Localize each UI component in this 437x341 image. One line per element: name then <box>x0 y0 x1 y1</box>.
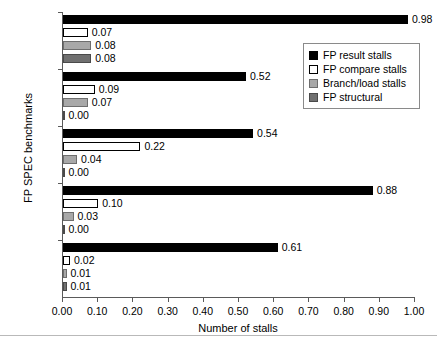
x-tick-9 <box>379 297 380 302</box>
bar-ear-series-0 <box>63 72 246 81</box>
legend-swatch-branch-load-stalls <box>309 79 318 88</box>
bar-su2cor-series-0 <box>63 243 278 252</box>
x-tick-8 <box>344 297 345 302</box>
x-tick-4 <box>203 297 204 302</box>
x-tick-label-2: 0.20 <box>112 305 152 317</box>
bar-doduc-series-0 <box>63 15 408 24</box>
bar-value-doduc-series-2: 0.08 <box>95 40 115 51</box>
x-tick-3 <box>168 297 169 302</box>
bar-su2cor-series-3 <box>63 282 67 291</box>
legend-swatch-fp-structural <box>309 93 318 102</box>
bar-value-ear-series-3: 0.00 <box>69 110 89 121</box>
bar-doduc-series-3 <box>63 54 91 63</box>
x-tick-label-3: 0.30 <box>148 305 188 317</box>
bar-value-hydro2d-series-1: 0.22 <box>144 141 164 152</box>
x-tick-7 <box>308 297 309 302</box>
x-tick-2 <box>132 297 133 302</box>
legend-swatch-fp-result-stalls <box>309 51 318 60</box>
y-axis-title: FP SPEC benchmarks <box>22 68 34 228</box>
x-tick-6 <box>273 297 274 302</box>
x-tick-label-6: 0.60 <box>253 305 293 317</box>
bar-value-ear-series-2: 0.07 <box>92 97 112 108</box>
x-tick-label-7: 0.70 <box>288 305 328 317</box>
bar-doduc-series-1 <box>63 28 88 37</box>
bar-value-hydro2d-series-3: 0.00 <box>69 167 89 178</box>
bar-value-ear-series-1: 0.09 <box>99 84 119 95</box>
bar-hydro2d-series-1 <box>63 142 140 151</box>
bar-value-hydro2d-series-0: 0.54 <box>257 128 277 139</box>
bar-value-doduc-series-0: 0.98 <box>412 14 432 25</box>
bar-value-su2cor-series-2: 0.01 <box>71 268 91 279</box>
bar-value-su2cor-series-3: 0.01 <box>71 281 91 292</box>
y-tick-0 <box>58 12 63 13</box>
x-tick-label-8: 0.80 <box>324 305 364 317</box>
y-tick-2 <box>58 126 63 127</box>
bar-value-mdljdp-series-1: 0.10 <box>102 198 122 209</box>
bar-hydro2d-series-2 <box>63 155 77 164</box>
x-tick-label-4: 0.40 <box>183 305 223 317</box>
y-tick-1 <box>58 69 63 70</box>
x-tick-label-1: 0.10 <box>77 305 117 317</box>
bar-su2cor-series-2 <box>63 269 67 278</box>
bar-value-su2cor-series-1: 0.02 <box>74 255 94 266</box>
legend-label-2: Branch/load stalls <box>323 77 406 89</box>
x-tick-label-9: 0.90 <box>359 305 399 317</box>
bar-value-ear-series-0: 0.52 <box>250 71 270 82</box>
x-tick-10 <box>414 297 415 302</box>
x-tick-5 <box>238 297 239 302</box>
bar-value-mdljdp-series-2: 0.03 <box>78 211 98 222</box>
legend: FP result stalls FP compare stalls Branc… <box>303 43 420 109</box>
legend-label-0: FP result stalls <box>323 49 392 61</box>
y-tick-4 <box>58 240 63 241</box>
bar-value-doduc-series-1: 0.07 <box>92 27 112 38</box>
bar-su2cor-series-1 <box>63 256 70 265</box>
legend-item-1[interactable]: FP compare stalls <box>309 62 414 76</box>
bar-chart: FP SPEC benchmarks Number of stalls 0.00… <box>0 0 437 341</box>
legend-swatch-fp-compare-stalls <box>309 65 318 74</box>
bar-mdljdp-series-3 <box>63 225 65 234</box>
bar-ear-series-3 <box>63 111 65 120</box>
legend-item-0[interactable]: FP result stalls <box>309 48 414 62</box>
legend-label-3: FP structural <box>323 91 382 103</box>
x-tick-1 <box>97 297 98 302</box>
y-tick-3 <box>58 183 63 184</box>
bar-doduc-series-2 <box>63 41 91 50</box>
x-tick-label-5: 0.50 <box>218 305 258 317</box>
x-axis-title: Number of stalls <box>62 322 414 334</box>
bar-hydro2d-series-3 <box>63 168 65 177</box>
bar-value-mdljdp-series-3: 0.00 <box>69 224 89 235</box>
bar-value-su2cor-series-0: 0.61 <box>282 242 302 253</box>
bar-mdljdp-series-1 <box>63 199 98 208</box>
bar-value-hydro2d-series-2: 0.04 <box>81 154 101 165</box>
legend-item-2[interactable]: Branch/load stalls <box>309 76 414 90</box>
bar-hydro2d-series-0 <box>63 129 253 138</box>
legend-item-3[interactable]: FP structural <box>309 90 414 104</box>
bar-value-doduc-series-3: 0.08 <box>95 53 115 64</box>
bar-mdljdp-series-0 <box>63 186 373 195</box>
page-rule <box>0 335 437 336</box>
bar-value-mdljdp-series-0: 0.88 <box>377 185 397 196</box>
bar-mdljdp-series-2 <box>63 212 74 221</box>
bar-ear-series-1 <box>63 85 95 94</box>
x-tick-label-0: 0.00 <box>42 305 82 317</box>
legend-label-1: FP compare stalls <box>323 63 407 75</box>
x-tick-0 <box>62 297 63 302</box>
x-tick-label-10: 1.00 <box>394 305 434 317</box>
bar-ear-series-2 <box>63 98 88 107</box>
